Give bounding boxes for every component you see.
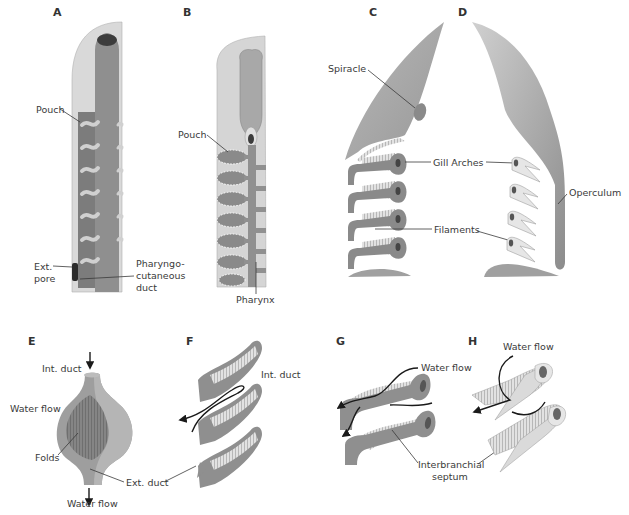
label-pouch-b: Pouch bbox=[178, 129, 206, 140]
arrow-water-flow-g-mid bbox=[390, 403, 432, 406]
leader-ext-duct-f bbox=[164, 466, 196, 482]
label-spiracle: Spiracle bbox=[328, 63, 366, 74]
panel-letter-e: E bbox=[28, 335, 36, 348]
panel-letter-c: C bbox=[369, 6, 377, 19]
panel-f: F Int. duct bbox=[180, 335, 301, 488]
pouch-gill-illustration bbox=[57, 373, 133, 486]
leader-gill-arches-d bbox=[486, 162, 515, 163]
label-operculum: Operculum bbox=[569, 187, 621, 198]
label-ext-pore-line2: pore bbox=[34, 273, 56, 284]
panel-h: H Water flow bbox=[468, 335, 566, 472]
label-folds: Folds bbox=[35, 452, 60, 463]
label-pharyngocutaneous-line2: cutaneous bbox=[136, 270, 185, 281]
panel-d: D bbox=[458, 6, 621, 277]
gill-anatomy-figure: A bbox=[0, 0, 629, 515]
panel-letter-f: F bbox=[186, 335, 194, 348]
panel-e: E Int. duct Water flow Folds Ext. duct W… bbox=[10, 335, 196, 509]
label-pharyngocutaneous-line1: Pharyngo- bbox=[136, 258, 185, 269]
lamprey-gill-illustration bbox=[217, 36, 266, 287]
leader-filaments-d bbox=[477, 231, 508, 240]
panel-letter-g: G bbox=[336, 335, 345, 348]
label-water-flow-e-in: Water flow bbox=[10, 403, 61, 414]
leader-ext-pore bbox=[53, 266, 72, 267]
label-interbranchial-line2: septum bbox=[432, 471, 468, 482]
teleost-filament-illustration bbox=[472, 363, 566, 472]
pouch-gill-section-illustration bbox=[197, 341, 262, 488]
panel-b: B bbox=[178, 6, 275, 305]
elasmobranch-gill-illustration bbox=[345, 22, 444, 277]
label-pharyngocutaneous-line3: duct bbox=[136, 282, 157, 293]
panel-letter-a: A bbox=[53, 6, 62, 19]
panel-letter-d: D bbox=[458, 6, 467, 19]
label-int-duct-e: Int. duct bbox=[42, 363, 82, 374]
label-ext-duct: Ext. duct bbox=[126, 477, 169, 488]
panel-letter-b: B bbox=[183, 6, 191, 19]
label-water-flow-h: Water flow bbox=[503, 341, 554, 352]
label-int-duct-f: Int. duct bbox=[261, 369, 301, 380]
label-filaments: Filaments bbox=[434, 224, 480, 235]
panel-a: A bbox=[34, 6, 185, 293]
label-ext-pore-line1: Ext. bbox=[34, 261, 52, 272]
gill-filaments-d bbox=[507, 157, 540, 262]
gill-arches-c bbox=[348, 153, 407, 269]
panel-letter-h: H bbox=[468, 335, 477, 348]
label-pharynx: Pharynx bbox=[236, 294, 275, 305]
label-water-flow-e-out: Water flow bbox=[67, 498, 118, 509]
label-interbranchial-line1: Interbranchial bbox=[418, 459, 484, 470]
hagfish-gill-illustration bbox=[72, 22, 122, 292]
label-gill-arches: Gill Arches bbox=[433, 157, 484, 168]
teleost-gill-illustration bbox=[472, 22, 565, 277]
label-water-flow-g: Water flow bbox=[421, 362, 472, 373]
